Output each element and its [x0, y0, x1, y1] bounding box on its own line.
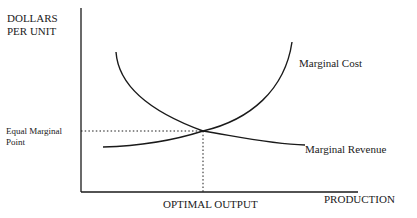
equal-marginal-point-label: Equal Marginal Point [6, 126, 78, 148]
y-axis-label: DOLLARS PER UNIT [7, 12, 77, 38]
marginal-cost-curve [116, 42, 292, 131]
optimal-output-label: OPTIMAL OUTPUT [163, 198, 258, 211]
marginal-revenue-label: Marginal Revenue [305, 143, 386, 156]
marginal-cost-label: Marginal Cost [299, 57, 362, 70]
marginal-revenue-curve [103, 131, 305, 147]
x-axis-label: PRODUCTION [324, 193, 395, 206]
